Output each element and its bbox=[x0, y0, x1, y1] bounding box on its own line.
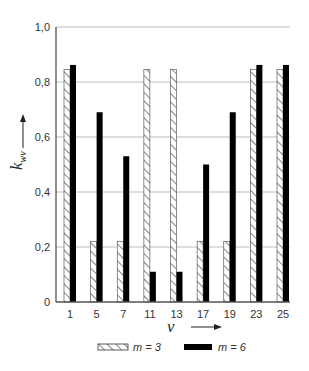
x-tick-label: 23 bbox=[250, 308, 262, 320]
bar-m6 bbox=[177, 272, 183, 302]
bar-m6 bbox=[230, 112, 236, 302]
y-tick-label: 0,6 bbox=[35, 131, 50, 143]
bar-m3 bbox=[91, 242, 97, 303]
bar-m3 bbox=[250, 70, 256, 302]
bars bbox=[64, 65, 289, 302]
bar-chart: 00,20,40,60,81,0 157111317192325 kwν ν m… bbox=[0, 0, 309, 371]
y-tick-label: 0,4 bbox=[35, 186, 50, 198]
x-tick-label: 19 bbox=[224, 308, 236, 320]
bar-m3 bbox=[64, 70, 70, 302]
x-tick-labels: 157111317192325 bbox=[67, 308, 289, 320]
y-tick-labels: 00,20,40,60,81,0 bbox=[35, 21, 50, 308]
bar-m6 bbox=[203, 165, 209, 303]
bar-m6 bbox=[70, 65, 76, 302]
bar-m3 bbox=[197, 242, 203, 303]
x-tick-label: 17 bbox=[197, 308, 209, 320]
y-tick-label: 1,0 bbox=[35, 21, 50, 33]
y-tick-label: 0 bbox=[44, 296, 50, 308]
bar-m3 bbox=[277, 70, 283, 302]
bar-m6 bbox=[256, 65, 262, 302]
x-axis-arrow-icon bbox=[191, 324, 222, 330]
x-tick-label: 11 bbox=[144, 308, 155, 320]
legend-swatch-solid bbox=[184, 344, 212, 350]
bar-m3 bbox=[144, 70, 150, 302]
bar-m3 bbox=[171, 70, 177, 302]
y-axis-label-sub: wν bbox=[17, 151, 28, 163]
bar-m6 bbox=[97, 112, 103, 302]
y-tick-label: 0,2 bbox=[35, 241, 50, 253]
x-tick-label: 25 bbox=[277, 308, 289, 320]
x-tick-label: 7 bbox=[120, 308, 126, 320]
legend-item-m6: m = 6 bbox=[184, 341, 247, 353]
y-tick-label: 0,8 bbox=[35, 76, 50, 88]
x-axis-label: ν bbox=[167, 317, 175, 336]
legend-swatch-hatched bbox=[98, 344, 128, 350]
bar-m6 bbox=[283, 65, 289, 302]
y-axis-arrow-icon bbox=[20, 114, 26, 148]
bar-m6 bbox=[123, 156, 129, 302]
bar-m6 bbox=[150, 272, 156, 302]
x-tick-label: 5 bbox=[94, 308, 100, 320]
legend: m = 3 m = 6 bbox=[98, 341, 247, 353]
legend-label-m3: m = 3 bbox=[133, 341, 162, 353]
y-axis-label: kwν bbox=[7, 151, 28, 170]
legend-item-m3: m = 3 bbox=[98, 341, 162, 353]
bar-m3 bbox=[117, 242, 123, 303]
x-tick-label: 1 bbox=[67, 308, 73, 320]
legend-label-m6: m = 6 bbox=[218, 341, 247, 353]
svg-text:kwν: kwν bbox=[7, 151, 28, 170]
bar-m3 bbox=[224, 242, 230, 303]
